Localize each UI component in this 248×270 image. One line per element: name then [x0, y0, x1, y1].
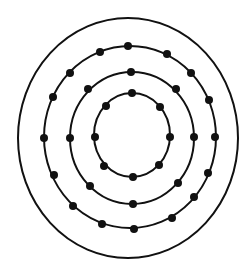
- middle-ring-dot: [172, 85, 180, 93]
- outer-ring-dot: [187, 69, 195, 77]
- outer-ring-dot: [96, 48, 104, 56]
- middle-ring-dot: [86, 182, 94, 190]
- outer-ring-dot: [124, 42, 132, 50]
- middle-ring-dot: [174, 179, 182, 187]
- middle-ring-dot: [129, 200, 137, 208]
- outer-ring-dot: [205, 96, 213, 104]
- middle-ring-dot: [190, 133, 198, 141]
- outer-ring-dot: [163, 50, 171, 58]
- outer-ring-dot: [40, 134, 48, 142]
- outer-boundary-ellipse: [18, 18, 238, 258]
- outer-ring-dot: [49, 93, 57, 101]
- outer-ring-dot: [130, 225, 138, 233]
- inner-ring-dot: [156, 103, 164, 111]
- outer-ring-dot: [50, 171, 58, 179]
- outer-ring-dot: [190, 193, 198, 201]
- inner-ring-dot: [91, 133, 99, 141]
- outer-ring-dot: [98, 220, 106, 228]
- inner-ring-dot: [155, 161, 163, 169]
- outer-ring-dot: [211, 133, 219, 141]
- inner-ring-dot: [100, 162, 108, 170]
- middle-ring-dot: [66, 134, 74, 142]
- concentric-shell-diagram: [0, 0, 248, 270]
- inner-ring-dot: [166, 133, 174, 141]
- outer-ring-dot: [66, 69, 74, 77]
- outer-ring-dot: [204, 169, 212, 177]
- middle-ring-dot: [127, 68, 135, 76]
- middle-ring-dot: [84, 85, 92, 93]
- inner-ring-dot: [129, 173, 137, 181]
- outer-ring-dot: [69, 202, 77, 210]
- outer-ring-dot: [168, 214, 176, 222]
- inner-ring-dot: [128, 89, 136, 97]
- inner-ring-dot: [102, 102, 110, 110]
